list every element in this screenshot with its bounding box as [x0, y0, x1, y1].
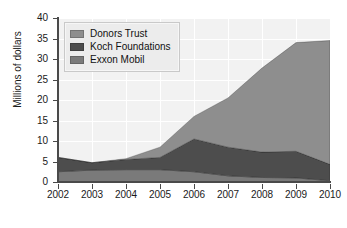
- y-tick-label-0: 0: [14, 177, 48, 187]
- y-tick-label-20: 20: [14, 95, 48, 105]
- y-tick-10: [53, 141, 58, 142]
- y-tick-30: [53, 59, 58, 60]
- y-tick-label-35: 35: [14, 34, 48, 44]
- y-tick-label-5: 5: [14, 157, 48, 167]
- y-tick-label-30: 30: [14, 54, 48, 64]
- legend-swatch-icon: [70, 56, 84, 64]
- legend-item-label: Donors Trust: [90, 29, 147, 39]
- y-tick-20: [53, 100, 58, 101]
- gridline-x-2010: [330, 18, 331, 182]
- y-tick-label-40: 40: [14, 13, 48, 23]
- y-tick-25: [53, 80, 58, 81]
- legend-item-exxon-mobil[interactable]: Exxon Mobil: [70, 54, 171, 66]
- legend-item-label: Exxon Mobil: [90, 55, 144, 65]
- x-axis-line: [57, 181, 331, 183]
- chart-legend: Donors TrustKoch FoundationsExxon Mobil: [64, 22, 180, 72]
- y-tick-15: [53, 121, 58, 122]
- y-tick-35: [53, 39, 58, 40]
- y-tick-label-25: 25: [14, 75, 48, 85]
- legend-swatch-icon: [70, 30, 84, 38]
- y-tick-label-15: 15: [14, 116, 48, 126]
- y-tick-40: [53, 18, 58, 19]
- chart-container: Millions of dollars 0510152025303540 200…: [0, 0, 347, 228]
- legend-item-label: Koch Foundations: [90, 42, 171, 52]
- y-tick-0: [53, 182, 58, 183]
- y-tick-5: [53, 162, 58, 163]
- y-axis-title: Millions of dollars: [12, 15, 23, 125]
- legend-swatch-icon: [70, 43, 84, 51]
- x-tick-label-2010: 2010: [310, 190, 347, 200]
- legend-item-donors-trust[interactable]: Donors Trust: [70, 28, 171, 40]
- legend-item-koch-foundations[interactable]: Koch Foundations: [70, 41, 171, 53]
- y-tick-label-10: 10: [14, 136, 48, 146]
